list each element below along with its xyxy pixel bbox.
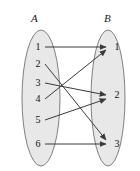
set-a-element-1: 1 — [33, 42, 43, 52]
set-a-element-6: 6 — [33, 139, 43, 149]
set-a-element-5: 5 — [33, 115, 43, 125]
set-a-element-3: 3 — [33, 78, 43, 88]
set-b-label: B — [104, 13, 111, 24]
set-b-element-1: 1 — [112, 42, 122, 52]
set-b-element-2: 2 — [112, 90, 122, 100]
set-a-element-4: 4 — [33, 94, 43, 104]
set-a-element-2: 2 — [33, 59, 43, 69]
mapping-diagram: A B 1 2 3 4 5 6 1 2 3 — [0, 0, 140, 171]
set-b-element-3: 3 — [112, 139, 122, 149]
set-a-label: A — [31, 13, 38, 24]
